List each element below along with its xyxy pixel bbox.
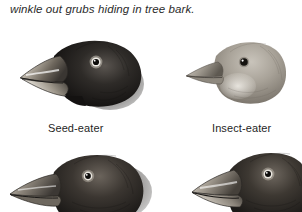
insect-eater-eye-glint bbox=[242, 60, 244, 62]
figure-caption-text: winkle out grubs hiding in tree bark. bbox=[10, 2, 300, 16]
bird-illustration-insect-eater bbox=[182, 30, 294, 112]
bottom-left-lower-mandible bbox=[11, 195, 61, 206]
insect-eater-cheek bbox=[220, 73, 256, 99]
bottom-right-pupil bbox=[265, 171, 271, 177]
bottom-left-eye-glint bbox=[86, 174, 88, 176]
bottom-left-finch-drawing bbox=[4, 148, 156, 212]
insect-eater-upper-mandible bbox=[186, 62, 223, 77]
insect-eater-pupil bbox=[240, 58, 248, 66]
bottom-right-finch-drawing bbox=[186, 148, 302, 212]
label-insect-eater: Insect-eater bbox=[212, 122, 271, 134]
seed-eater-drawing bbox=[12, 26, 152, 114]
seed-eater-eye-glint bbox=[94, 60, 96, 62]
bottom-right-eye-glint bbox=[266, 172, 268, 174]
seed-eater-pupil bbox=[93, 59, 99, 65]
bottom-left-pupil bbox=[85, 173, 91, 179]
insect-eater-drawing bbox=[182, 30, 294, 112]
seed-eater-upper-mandible bbox=[20, 56, 68, 82]
bottom-left-head bbox=[52, 155, 143, 212]
bird-illustration-bottom-left bbox=[4, 148, 156, 212]
bottom-right-lower-mandible bbox=[193, 193, 243, 207]
bottom-left-upper-mandible bbox=[10, 174, 61, 196]
figure-container: winkle out grubs hiding in tree bark. bbox=[0, 0, 302, 212]
label-seed-eater: Seed-eater bbox=[48, 122, 103, 134]
bird-illustration-bottom-right bbox=[186, 148, 302, 212]
bird-illustration-seed-eater bbox=[12, 26, 152, 114]
